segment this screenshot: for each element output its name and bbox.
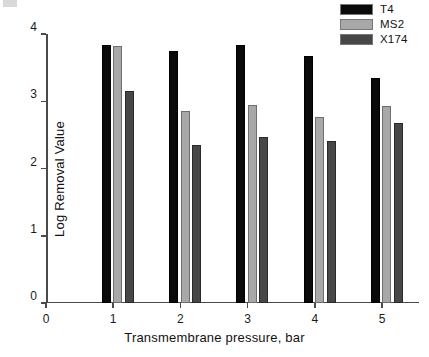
bar-x174-1bar (125, 91, 134, 303)
bar-ms2-2bar (181, 111, 190, 303)
x-axis-tick-label: 2 (177, 312, 184, 326)
bar-t4-3bar (236, 45, 245, 303)
x-axis-tick (112, 303, 114, 308)
y-axis-title: Log Removal Value (52, 121, 67, 237)
bar-t4-2bar (169, 51, 178, 303)
scan-artifact (3, 0, 17, 7)
y-axis-tick (41, 33, 46, 35)
bar-chart: T4MS2X174 01234012345 Log Removal Value … (0, 0, 429, 357)
y-axis-tick (41, 101, 46, 103)
bar-x174-3bar (259, 137, 268, 303)
legend-label: MS2 (380, 19, 404, 30)
x-axis-tick-label: 0 (43, 312, 50, 326)
legend-label: T4 (380, 4, 394, 15)
plot-area: 01234012345 (46, 34, 419, 303)
legend-item-t4: T4 (340, 4, 408, 15)
bar-ms2-1bar (113, 46, 122, 303)
x-axis-title: Transmembrane pressure, bar (0, 330, 429, 345)
y-axis-tick-label: 0 (30, 289, 37, 303)
legend-swatch-icon (340, 19, 373, 30)
x-axis-tick (314, 303, 316, 308)
x-axis-tick (381, 303, 383, 308)
x-axis-tick-label: 5 (379, 312, 386, 326)
y-axis-tick (41, 168, 46, 170)
bar-t4-4bar (304, 56, 313, 303)
x-axis-tick (45, 303, 47, 308)
bar-x174-4bar (327, 141, 336, 303)
x-axis-tick-label: 4 (311, 312, 318, 326)
y-axis-tick-label: 4 (30, 20, 37, 34)
bar-ms2-3bar (248, 105, 257, 303)
bar-ms2-5bar (382, 106, 391, 303)
bar-t4-5bar (371, 78, 380, 303)
bar-t4-1bar (102, 45, 111, 303)
x-axis-tick-label: 3 (244, 312, 251, 326)
y-axis-line (46, 34, 48, 303)
x-axis-tick (247, 303, 249, 308)
bar-x174-5bar (394, 123, 403, 303)
y-axis-tick-label: 1 (30, 222, 37, 236)
legend-item-ms2: MS2 (340, 19, 408, 30)
bar-ms2-4bar (315, 117, 324, 303)
x-axis-tick (180, 303, 182, 308)
y-axis-tick-label: 2 (30, 155, 37, 169)
bar-x174-2bar (192, 145, 201, 303)
y-axis-tick (41, 235, 46, 237)
legend-swatch-icon (340, 4, 373, 15)
y-axis-tick-label: 3 (30, 87, 37, 101)
x-axis-tick-label: 1 (110, 312, 117, 326)
